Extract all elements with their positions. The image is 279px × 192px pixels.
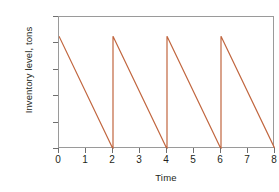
y-tick-3 bbox=[53, 69, 58, 70]
x-tick-8 bbox=[274, 148, 275, 153]
x-tick-6 bbox=[220, 148, 221, 153]
y-tick-4 bbox=[53, 42, 58, 43]
x-tick-label-5: 5 bbox=[183, 154, 203, 165]
x-tick-label-2: 2 bbox=[102, 154, 122, 165]
y-tick-1 bbox=[53, 122, 58, 123]
x-tick-label-6: 6 bbox=[210, 154, 230, 165]
x-tick-5 bbox=[193, 148, 194, 153]
x-tick-2 bbox=[112, 148, 113, 153]
x-tick-7 bbox=[247, 148, 248, 153]
x-tick-4 bbox=[166, 148, 167, 153]
x-tick-label-8: 8 bbox=[264, 154, 279, 165]
y-tick-2 bbox=[53, 95, 58, 96]
x-axis-title: Time bbox=[58, 172, 274, 183]
x-tick-1 bbox=[85, 148, 86, 153]
x-tick-3 bbox=[139, 148, 140, 153]
inventory-level-line bbox=[59, 36, 275, 149]
y-axis-title: Inventory level, tons bbox=[22, 0, 36, 166]
x-tick-label-7: 7 bbox=[237, 154, 257, 165]
x-tick-0 bbox=[58, 148, 59, 153]
sawtooth-series-svg bbox=[59, 17, 275, 149]
inventory-sawtooth-chart: Inventory level, tons 012345678 Time bbox=[0, 0, 279, 192]
x-tick-label-4: 4 bbox=[156, 154, 176, 165]
x-tick-label-0: 0 bbox=[48, 154, 68, 165]
x-tick-label-1: 1 bbox=[75, 154, 95, 165]
plot-area bbox=[58, 16, 274, 148]
x-tick-label-3: 3 bbox=[129, 154, 149, 165]
y-tick-5 bbox=[53, 16, 58, 17]
